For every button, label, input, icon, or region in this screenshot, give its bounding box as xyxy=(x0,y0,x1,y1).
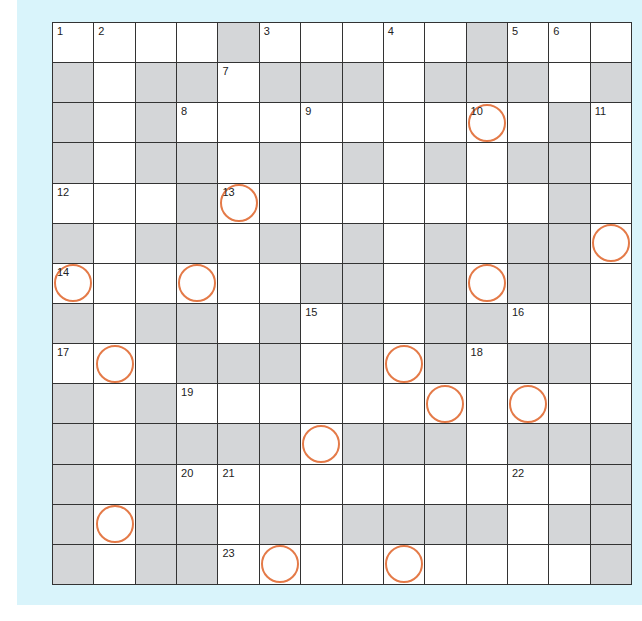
answer-cell[interactable] xyxy=(591,184,631,223)
answer-cell[interactable] xyxy=(343,384,383,423)
answer-cell[interactable] xyxy=(591,344,631,383)
answer-cell[interactable] xyxy=(549,63,589,102)
answer-cell[interactable] xyxy=(94,63,134,102)
answer-cell[interactable]: 12 xyxy=(53,184,93,223)
answer-cell[interactable] xyxy=(136,184,176,223)
answer-cell[interactable] xyxy=(549,384,589,423)
answer-cell[interactable] xyxy=(177,23,217,62)
answer-cell[interactable] xyxy=(591,264,631,303)
answer-cell[interactable]: 7 xyxy=(218,63,258,102)
answer-cell[interactable] xyxy=(384,63,424,102)
answer-cell[interactable] xyxy=(94,384,134,423)
answer-cell[interactable] xyxy=(467,545,507,584)
answer-cell[interactable]: 10 xyxy=(467,103,507,142)
answer-cell[interactable] xyxy=(508,384,548,423)
answer-cell[interactable] xyxy=(177,264,217,303)
answer-cell[interactable] xyxy=(467,224,507,263)
answer-cell[interactable] xyxy=(384,304,424,343)
answer-cell[interactable] xyxy=(425,23,465,62)
answer-cell[interactable] xyxy=(301,465,341,504)
answer-cell[interactable] xyxy=(467,264,507,303)
answer-cell[interactable] xyxy=(425,545,465,584)
answer-cell[interactable]: 3 xyxy=(260,23,300,62)
answer-cell[interactable] xyxy=(467,465,507,504)
answer-cell[interactable] xyxy=(301,224,341,263)
answer-cell[interactable] xyxy=(136,344,176,383)
answer-cell[interactable] xyxy=(260,103,300,142)
answer-cell[interactable] xyxy=(384,143,424,182)
answer-cell[interactable] xyxy=(425,384,465,423)
answer-cell[interactable] xyxy=(467,384,507,423)
answer-cell[interactable]: 16 xyxy=(508,304,548,343)
answer-cell[interactable] xyxy=(508,545,548,584)
answer-cell[interactable] xyxy=(94,103,134,142)
answer-cell[interactable] xyxy=(467,143,507,182)
answer-cell[interactable] xyxy=(94,545,134,584)
answer-cell[interactable] xyxy=(508,505,548,544)
answer-cell[interactable] xyxy=(301,384,341,423)
answer-cell[interactable] xyxy=(218,264,258,303)
answer-cell[interactable] xyxy=(425,465,465,504)
answer-cell[interactable] xyxy=(136,264,176,303)
answer-cell[interactable]: 9 xyxy=(301,103,341,142)
answer-cell[interactable] xyxy=(343,545,383,584)
answer-cell[interactable] xyxy=(384,184,424,223)
answer-cell[interactable] xyxy=(301,344,341,383)
answer-cell[interactable] xyxy=(549,304,589,343)
answer-cell[interactable] xyxy=(384,103,424,142)
answer-cell[interactable] xyxy=(343,23,383,62)
answer-cell[interactable] xyxy=(218,143,258,182)
answer-cell[interactable] xyxy=(508,103,548,142)
answer-cell[interactable] xyxy=(384,224,424,263)
answer-cell[interactable] xyxy=(301,23,341,62)
answer-cell[interactable] xyxy=(549,465,589,504)
answer-cell[interactable] xyxy=(301,424,341,463)
answer-cell[interactable]: 14 xyxy=(53,264,93,303)
answer-cell[interactable]: 5 xyxy=(508,23,548,62)
answer-cell[interactable] xyxy=(94,424,134,463)
answer-cell[interactable]: 2 xyxy=(94,23,134,62)
answer-cell[interactable] xyxy=(591,224,631,263)
answer-cell[interactable] xyxy=(384,344,424,383)
answer-cell[interactable] xyxy=(591,23,631,62)
answer-cell[interactable] xyxy=(467,184,507,223)
answer-cell[interactable] xyxy=(508,184,548,223)
answer-cell[interactable] xyxy=(136,23,176,62)
answer-cell[interactable] xyxy=(94,505,134,544)
answer-cell[interactable]: 17 xyxy=(53,344,93,383)
answer-cell[interactable] xyxy=(94,344,134,383)
answer-cell[interactable] xyxy=(384,384,424,423)
answer-cell[interactable] xyxy=(94,184,134,223)
answer-cell[interactable] xyxy=(94,143,134,182)
answer-cell[interactable] xyxy=(425,184,465,223)
answer-cell[interactable] xyxy=(549,545,589,584)
answer-cell[interactable] xyxy=(260,545,300,584)
answer-cell[interactable] xyxy=(94,465,134,504)
answer-cell[interactable] xyxy=(94,264,134,303)
answer-cell[interactable] xyxy=(467,424,507,463)
answer-cell[interactable] xyxy=(591,143,631,182)
answer-cell[interactable] xyxy=(260,184,300,223)
answer-cell[interactable] xyxy=(218,304,258,343)
answer-cell[interactable] xyxy=(218,505,258,544)
answer-cell[interactable] xyxy=(218,384,258,423)
answer-cell[interactable] xyxy=(301,505,341,544)
answer-cell[interactable]: 18 xyxy=(467,344,507,383)
answer-cell[interactable] xyxy=(260,465,300,504)
answer-cell[interactable] xyxy=(384,465,424,504)
answer-cell[interactable] xyxy=(301,143,341,182)
answer-cell[interactable]: 1 xyxy=(53,23,93,62)
answer-cell[interactable]: 15 xyxy=(301,304,341,343)
answer-cell[interactable] xyxy=(343,465,383,504)
answer-cell[interactable] xyxy=(301,545,341,584)
answer-cell[interactable] xyxy=(260,384,300,423)
answer-cell[interactable] xyxy=(301,184,341,223)
answer-cell[interactable]: 4 xyxy=(384,23,424,62)
answer-cell[interactable] xyxy=(425,103,465,142)
answer-cell[interactable] xyxy=(94,304,134,343)
answer-cell[interactable] xyxy=(384,545,424,584)
answer-cell[interactable] xyxy=(591,384,631,423)
answer-cell[interactable]: 23 xyxy=(218,545,258,584)
answer-cell[interactable] xyxy=(591,304,631,343)
answer-cell[interactable]: 11 xyxy=(591,103,631,142)
